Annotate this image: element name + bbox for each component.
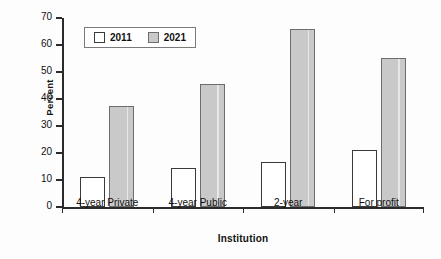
x-axis-category-label: For profit: [334, 197, 425, 208]
legend: 2011 2021: [84, 27, 196, 48]
y-axis-tick: [56, 17, 62, 18]
y-axis-tick-label: 10: [26, 174, 52, 184]
y-axis-tick: [56, 152, 62, 153]
bar-2021-2-year: [290, 29, 315, 207]
y-axis-tick-label: 20: [26, 147, 52, 157]
bar-chart: Percent 706050403020100 4-year Private4-…: [0, 0, 441, 259]
gray-square-swatch-icon: [148, 32, 159, 43]
x-axis-category-label: 4-year Private: [62, 197, 153, 208]
legend-entry-2011: 2011: [94, 32, 132, 43]
y-axis-tick-label: 60: [26, 39, 52, 49]
y-axis-tick-label: 30: [26, 120, 52, 130]
legend-label-2011: 2011: [110, 33, 132, 43]
legend-entry-2021: 2021: [148, 32, 186, 43]
y-axis-tick: [56, 98, 62, 99]
y-axis-tick: [56, 179, 62, 180]
bar-2021-4-year-private: [109, 106, 134, 207]
bar-2021-for-profit: [381, 58, 406, 207]
y-axis-tick-label: 40: [26, 93, 52, 103]
x-axis-category-label: 4-year Public: [153, 197, 244, 208]
y-axis-tick-label: 70: [26, 12, 52, 22]
y-axis-tick-label: 50: [26, 66, 52, 76]
y-axis-tick: [56, 125, 62, 126]
hollow-square-swatch-icon: [94, 32, 105, 43]
y-axis-tick: [56, 71, 62, 72]
bar-2021-4-year-public: [200, 84, 225, 207]
y-axis-tick-label: 0: [26, 201, 52, 211]
x-axis-category-label: 2-year: [243, 197, 334, 208]
y-axis-tick: [56, 44, 62, 45]
legend-label-2021: 2021: [164, 33, 186, 43]
y-axis-line: [62, 18, 64, 207]
x-axis-title: Institution: [62, 233, 424, 244]
